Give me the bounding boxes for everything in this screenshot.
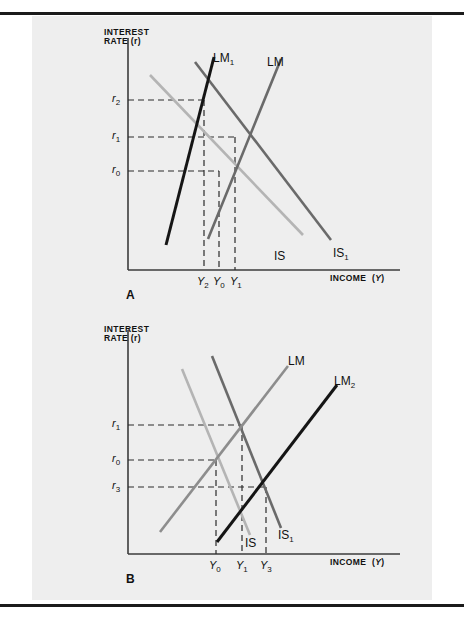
curve-lm-b	[160, 366, 288, 532]
tick-label-r3-b: r3	[112, 479, 120, 495]
curve-label-is-b: IS	[245, 537, 256, 550]
guide-dashes-b	[128, 425, 266, 554]
tick-label-y1-b: Y1	[236, 559, 248, 575]
panel-letter-b: B	[126, 573, 135, 586]
chart-panel-b-svg	[0, 0, 464, 619]
curve-label-lm-b: LM	[288, 355, 305, 368]
tick-label-y0-b: Y0	[209, 559, 221, 575]
tick-label-r0-b: r0	[112, 452, 120, 468]
curve-label-is1-b: IS1	[278, 529, 294, 545]
curve-label-lm2-b: LM2	[334, 375, 355, 391]
tick-label-r1-b: r1	[112, 417, 120, 433]
figure-root: INTEREST RATE (r) LM1 LM IS IS1 r2 r1 r0…	[0, 0, 464, 619]
y-axis-title-b-line2: RATE (r)	[104, 333, 141, 343]
x-axis-title-b: INCOME (Y)	[330, 558, 384, 567]
y-axis-title-b: INTEREST RATE (r)	[104, 325, 149, 344]
tick-label-y3-b: Y3	[260, 559, 272, 575]
chart-panel-b	[0, 0, 464, 619]
